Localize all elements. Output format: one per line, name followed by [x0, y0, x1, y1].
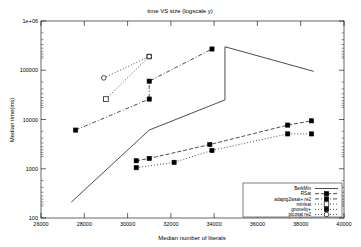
legend-label-picosat: picosat re2 [289, 212, 312, 217]
x-tick-label-38000: 38000 [293, 221, 308, 227]
data-point [208, 142, 212, 146]
data-point [104, 97, 109, 102]
data-point [147, 97, 151, 101]
data-point [101, 76, 106, 81]
x-tick-label-36000: 36000 [250, 221, 265, 227]
chart-title: time VS size (logscale y) [147, 8, 213, 14]
legend-marker-minisat [324, 202, 329, 207]
chart-container: time VS size (logscale y) [0, 0, 361, 247]
time-vs-size-chart: time VS size (logscale y) [0, 0, 361, 247]
y-axis-label: Median time(ms) [9, 98, 15, 143]
legend-marker-adaptg2wsat [324, 197, 328, 201]
data-point [309, 119, 313, 123]
data-point [134, 159, 138, 163]
data-point [134, 166, 138, 170]
data-point [147, 79, 151, 83]
data-point [210, 148, 214, 152]
x-tick-label-32000: 32000 [163, 221, 178, 227]
legend-marker-gnovelty [324, 207, 328, 211]
x-tick-label-28000: 28000 [77, 221, 92, 227]
legend-marker-rsat [324, 192, 328, 196]
y-tick-label-10000: 10000 [23, 117, 38, 123]
x-tick-label-30000: 30000 [120, 221, 135, 227]
y-tick-label-100000: 100000 [20, 67, 38, 73]
x-tick-label-26000: 26000 [33, 221, 48, 227]
data-point [210, 47, 214, 51]
legend-marker-picosat [324, 212, 329, 217]
data-point [286, 123, 290, 127]
y-tick-label-1000: 1000 [26, 166, 38, 172]
data-point [147, 156, 151, 160]
data-point [74, 128, 78, 132]
legend: BerkMinRSatadaptg2wsat+ re2minisatgnovel… [243, 183, 342, 217]
data-point [309, 132, 313, 136]
x-axis-label: Median number of literals [158, 235, 225, 241]
data-point [286, 132, 290, 136]
data-point [147, 54, 152, 59]
y-tick-label-1e06: 1e+06 [23, 18, 38, 24]
data-point [172, 160, 176, 164]
x-tick-label-34000: 34000 [206, 221, 221, 227]
x-tick-label-40000: 40000 [336, 221, 351, 227]
